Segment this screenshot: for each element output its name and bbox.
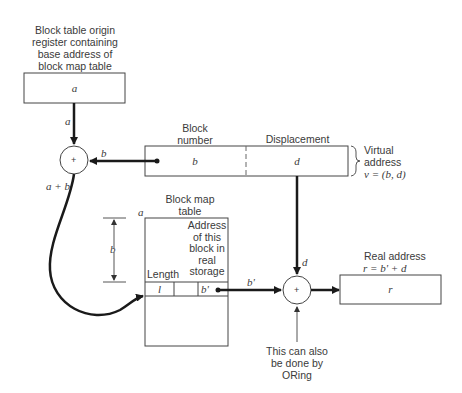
block-map-caption: Block map table xyxy=(150,193,230,217)
adder2-symbol: + xyxy=(294,284,299,296)
block-number-value: b xyxy=(165,155,225,167)
note-line: be done by xyxy=(255,357,339,369)
row-length-value: l xyxy=(145,283,174,295)
displacement-value: d xyxy=(267,155,327,167)
adder2-input-left-label: b' xyxy=(247,276,255,288)
header-line: storage xyxy=(184,266,230,278)
real-address-caption: Real address xyxy=(364,250,426,262)
adder1-symbol: + xyxy=(71,154,76,166)
caption-line: Block table origin xyxy=(14,24,136,36)
offset-label: b xyxy=(110,243,116,255)
caption-line: table xyxy=(150,205,230,217)
caption-line: register containing xyxy=(14,36,136,48)
caption-line: base address of xyxy=(14,48,136,60)
row-address-value: b' xyxy=(201,283,209,295)
origin-register-value: a xyxy=(24,82,125,94)
column-address-header: Address of this block in real storage xyxy=(184,220,230,278)
virtual-address-formula: v = (b, d) xyxy=(364,168,406,180)
real-address-formula: r = b' + d xyxy=(363,262,406,274)
virtual-address-brace xyxy=(351,146,360,176)
note-line: This can also xyxy=(255,345,339,357)
block-number-header: Block number xyxy=(155,122,235,146)
adder1-input-right-label: b xyxy=(101,147,107,159)
real-address-value: r xyxy=(340,283,441,295)
adder2-note: This can also be done by ORing xyxy=(255,345,339,381)
displacement-header: Displacement xyxy=(250,133,345,145)
adder1-input-top-label: a xyxy=(65,115,71,127)
column-length-header: Length xyxy=(147,268,179,280)
header-line: block in xyxy=(184,243,230,255)
caption-line: block map table xyxy=(14,60,136,72)
origin-register-caption: Block table origin register containing b… xyxy=(14,24,136,72)
caption-line: Block map xyxy=(150,193,230,205)
adder2-input-top-label: d xyxy=(302,256,308,268)
note-line: ORing xyxy=(255,369,339,381)
header-line: Address xyxy=(184,220,230,232)
table-origin-label: a xyxy=(138,206,144,218)
header-line: number xyxy=(155,134,235,146)
label-line: address xyxy=(364,156,406,168)
label-line: Virtual xyxy=(364,144,406,156)
arrow-a-plus-b-curve xyxy=(50,174,143,315)
header-line: Block xyxy=(155,122,235,134)
virtual-address-label: Virtual address v = (b, d) xyxy=(364,144,406,180)
adder1-output-label: a + b xyxy=(46,180,70,192)
